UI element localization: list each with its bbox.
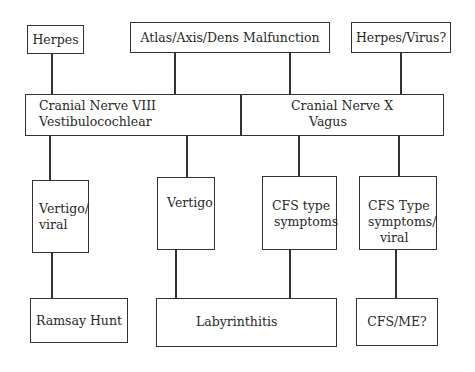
node-cfs-viral-line2: symptoms/ (368, 214, 436, 230)
connector-herpes-to-cn8 (51, 54, 53, 94)
cranial-band-divider (240, 94, 242, 136)
connector-atlas-to-cn10 (289, 53, 291, 94)
node-cfs-me: CFS/ME? (356, 298, 438, 346)
node-vertigo-viral-line2: viral (39, 217, 68, 233)
node-cfs-me-label: CFS/ME? (367, 314, 427, 330)
connector-herpesvirus-to-cn10 (400, 53, 402, 94)
connector-atlas-to-cn8 (174, 53, 176, 94)
node-herpes-label: Herpes (32, 32, 78, 48)
connector-vertigo-to-labyrinthitis (175, 250, 177, 298)
node-labyrinthitis: Labyrinthitis (156, 298, 337, 347)
connector-cfs-viral-to-cfsme (395, 250, 397, 298)
cn8-label-line2: Vestibulocochlear (39, 114, 152, 130)
connector-cn8-to-vertigo (186, 136, 188, 177)
cn8-label-line1: Cranial Nerve VIII (39, 98, 156, 114)
cn10-label-line1: Cranial Nerve X (291, 98, 393, 114)
connector-cfs-type-to-labyrinthitis (289, 250, 291, 298)
connector-cn8-to-vertigo-viral (49, 136, 51, 180)
node-cfs-type-line1: CFS type (272, 198, 330, 214)
node-herpes-virus: Herpes/Virus? (351, 22, 451, 53)
node-ramsay-hunt: Ramsay Hunt (30, 298, 128, 343)
node-labyrinthitis-label: Labyrinthitis (196, 314, 277, 330)
node-herpes: Herpes (27, 25, 84, 54)
connector-cn10-to-cfs-type (298, 136, 300, 176)
node-cfs-type-symptoms-viral: CFS Type symptoms/ viral (359, 176, 437, 250)
node-atlas-label: Atlas/Axis/Dens Malfunction (140, 30, 319, 46)
connector-vertigo-viral-to-ramsay (51, 253, 53, 298)
node-cfs-type-line2: symptoms (274, 214, 338, 230)
node-herpes-virus-label: Herpes/Virus? (356, 30, 446, 46)
node-atlas-axis-dens: Atlas/Axis/Dens Malfunction (130, 22, 330, 53)
connector-cn10-to-cfs-type-viral (398, 136, 400, 176)
cn10-label-line2: Vagus (309, 114, 347, 130)
node-ramsay-hunt-label: Ramsay Hunt (36, 313, 122, 329)
node-vertigo-viral: Vertigo/ viral (32, 180, 89, 253)
node-cfs-viral-line3: viral (380, 230, 409, 246)
node-cfs-type-symptoms: CFS type symptoms (262, 176, 337, 250)
node-vertigo: Vertigo (157, 177, 215, 250)
node-vertigo-label: Vertigo (167, 195, 213, 211)
node-cfs-viral-line1: CFS Type (368, 198, 430, 214)
node-vertigo-viral-line1: Vertigo/ (39, 201, 89, 217)
